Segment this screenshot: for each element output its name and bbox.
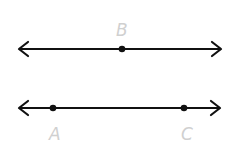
point-b: [119, 46, 126, 53]
label-a: A: [48, 124, 61, 144]
point-a: [50, 105, 57, 112]
diagram-canvas: B A C: [0, 0, 239, 152]
label-c: C: [181, 124, 193, 144]
top-line: B: [19, 20, 221, 56]
label-b: B: [116, 20, 128, 40]
bottom-line: A C: [19, 101, 220, 144]
point-c: [181, 105, 188, 112]
